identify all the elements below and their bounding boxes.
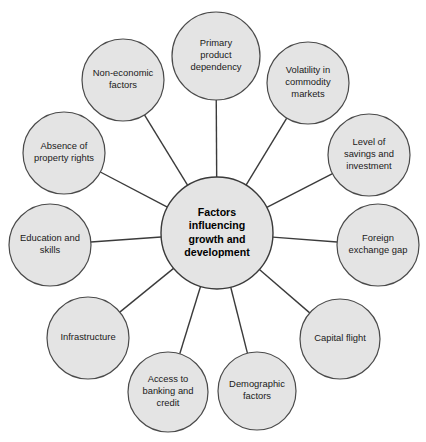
node-demographic-factors[interactable]: Demographicfactors: [218, 352, 296, 430]
label-line: growth and: [188, 232, 245, 244]
label-line: Education and: [20, 233, 80, 244]
node-volatility-in-commodity-markets[interactable]: Volatility incommoditymarkets: [267, 42, 349, 124]
radial-diagram: PrimaryproductdependencyVolatility incom…: [0, 0, 426, 442]
spoke-line-education-and-skills: [91, 237, 161, 242]
spoke-line-absence-of-property-rights: [100, 172, 167, 207]
spoke-line-access-to-banking-and-credit: [180, 287, 201, 354]
node-label-capital-flight: Capital flight: [314, 332, 366, 343]
spoke-line-infrastructure: [120, 268, 174, 312]
node-capital-flight[interactable]: Capital flight: [300, 299, 380, 379]
label-line: savings and: [344, 148, 394, 159]
node-label-volatility-in-commodity-markets: Volatility incommoditymarkets: [285, 65, 331, 99]
node-non-economic-factors[interactable]: Non-economicfactors: [82, 39, 164, 121]
label-line: Access to: [148, 374, 189, 385]
label-line: Level of: [353, 137, 386, 148]
label-line: Primary: [200, 38, 233, 49]
hub-node[interactable]: Factorsinfluencinggrowth anddevelopment: [161, 177, 273, 289]
label-line: Non-economic: [93, 68, 154, 79]
label-line: exchange gap: [349, 244, 408, 255]
node-infrastructure[interactable]: Infrastructure: [47, 297, 129, 379]
node-access-to-banking-and-credit[interactable]: Access tobanking andcredit: [128, 352, 208, 432]
node-education-and-skills[interactable]: Education andskills: [9, 204, 91, 286]
spoke-line-non-economic-factors: [144, 115, 187, 185]
hub-layer: Factorsinfluencinggrowth anddevelopment: [161, 177, 273, 289]
label-line: skills: [40, 244, 61, 255]
radial-diagram-canvas: PrimaryproductdependencyVolatility incom…: [0, 0, 426, 442]
label-line: investment: [346, 160, 392, 171]
label-line: Demographic: [229, 379, 285, 390]
label-line: factors: [243, 390, 271, 401]
spoke-line-level-of-savings-and-investment: [267, 174, 333, 208]
label-line: factors: [109, 79, 137, 90]
label-line: banking and: [142, 385, 193, 396]
node-primary-product-dependency[interactable]: Primaryproductdependency: [172, 12, 260, 100]
label-line: commodity: [285, 76, 331, 87]
spoke-line-foreign-exchange-gap: [273, 237, 337, 242]
label-line: product: [200, 49, 232, 60]
label-line: Capital flight: [314, 332, 366, 343]
node-label-absence-of-property-rights: Absence ofproperty rights: [34, 141, 94, 164]
spoke-line-volatility-in-commodity-markets: [246, 118, 287, 185]
label-line: property rights: [34, 152, 94, 163]
node-absence-of-property-rights[interactable]: Absence ofproperty rights: [23, 112, 105, 194]
label-line: markets: [291, 88, 325, 99]
node-foreign-exchange-gap[interactable]: Foreignexchange gap: [337, 204, 419, 286]
node-label-infrastructure: Infrastructure: [60, 331, 115, 342]
label-line: credit: [157, 397, 180, 408]
spoke-line-demographic-factors: [231, 287, 248, 353]
label-line: dependency: [190, 61, 241, 72]
label-line: Volatility in: [286, 65, 330, 76]
label-line: development: [184, 246, 250, 258]
label-line: Foreign: [362, 233, 394, 244]
label-line: Factors: [198, 206, 236, 218]
label-line: Infrastructure: [60, 331, 115, 342]
label-line: influencing: [189, 219, 246, 231]
spoke-line-capital-flight: [259, 270, 309, 313]
node-level-of-savings-and-investment[interactable]: Level ofsavings andinvestment: [328, 114, 410, 196]
label-line: Absence of: [41, 141, 88, 152]
